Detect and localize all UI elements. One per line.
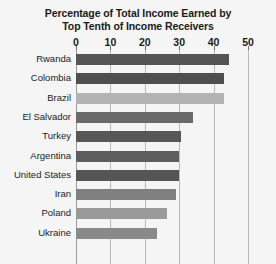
bar-row: United States — [76, 166, 248, 185]
tick-mark-10 — [110, 46, 111, 50]
chart-title-line-2: Top Tenth of Income Receivers — [0, 20, 276, 33]
bar-row: Colombia — [76, 69, 248, 88]
tick-mark-40 — [214, 46, 215, 50]
category-label-ukraine: Ukraine — [0, 227, 76, 238]
bar-rwanda — [76, 54, 229, 65]
plot-area: RwandaColombiaBrazilEl SalvadorTurkeyArg… — [76, 50, 248, 246]
bar-iran — [76, 189, 176, 200]
bar-row: Rwanda — [76, 50, 248, 69]
bar-united-states — [76, 170, 179, 181]
category-label-el-salvador: El Salvador — [0, 111, 76, 122]
bar-row: Turkey — [76, 127, 248, 146]
gridline-50 — [248, 46, 249, 264]
category-label-colombia: Colombia — [0, 72, 76, 83]
bar-row: Iran — [76, 185, 248, 204]
category-label-united-states: United States — [0, 169, 76, 180]
category-label-iran: Iran — [0, 188, 76, 199]
category-label-poland: Poland — [0, 207, 76, 218]
bar-argentina — [76, 151, 179, 162]
bar-ukraine — [76, 228, 157, 239]
bar-brazil — [76, 93, 224, 104]
tick-mark-0 — [76, 46, 77, 50]
bar-row: Argentina — [76, 147, 248, 166]
bar-row: Brazil — [76, 89, 248, 108]
bar-chart-figure: Percentage of Total Income Earned by Top… — [0, 0, 276, 264]
category-label-turkey: Turkey — [0, 130, 76, 141]
bar-colombia — [76, 73, 224, 84]
category-label-brazil: Brazil — [0, 92, 76, 103]
bar-turkey — [76, 131, 181, 142]
bar-poland — [76, 208, 167, 219]
bar-row: Poland — [76, 204, 248, 223]
bar-row: Ukraine — [76, 224, 248, 243]
category-label-argentina: Argentina — [0, 150, 76, 161]
tick-mark-30 — [179, 46, 180, 50]
tick-mark-20 — [145, 46, 146, 50]
tick-mark-50 — [248, 46, 249, 50]
bar-el-salvador — [76, 112, 193, 123]
category-label-rwanda: Rwanda — [0, 53, 76, 64]
bar-row: El Salvador — [76, 108, 248, 127]
chart-title-line-1: Percentage of Total Income Earned by — [0, 7, 276, 20]
chart-title: Percentage of Total Income Earned by Top… — [0, 7, 276, 33]
x-axis-tick-labels: 01020304050 — [0, 36, 276, 50]
